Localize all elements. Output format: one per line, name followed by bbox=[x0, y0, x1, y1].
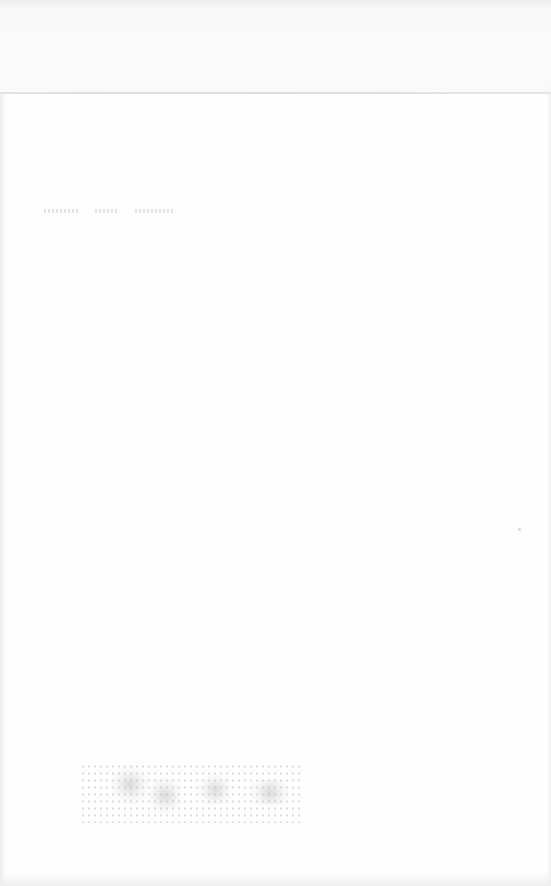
scan-bottom-edge bbox=[0, 872, 551, 886]
scanned-page bbox=[0, 0, 551, 886]
faint-text-line bbox=[44, 205, 189, 219]
scan-speck bbox=[518, 528, 521, 531]
header-divider bbox=[0, 92, 551, 94]
faint-word bbox=[95, 209, 117, 213]
scan-edge-left bbox=[0, 0, 6, 886]
stamp-speckle bbox=[80, 763, 300, 823]
stamp-mark bbox=[60, 755, 320, 830]
faint-word bbox=[135, 209, 175, 213]
page-header-band bbox=[0, 0, 551, 93]
faint-word bbox=[44, 209, 78, 213]
scan-edge-right bbox=[547, 0, 551, 886]
